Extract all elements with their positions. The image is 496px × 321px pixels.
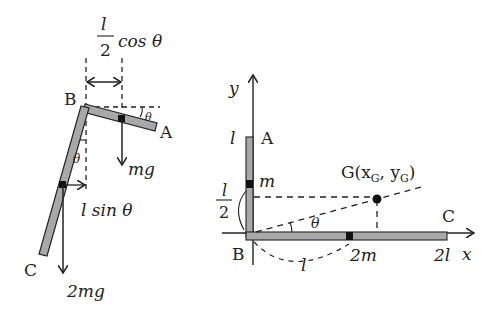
theta-label: θ xyxy=(311,215,320,231)
angle-arc-theta xyxy=(290,222,292,232)
label-A: A xyxy=(159,122,173,142)
fraction-numerator: l xyxy=(222,181,227,200)
x-axis-label: x xyxy=(462,244,472,264)
right-figure: y x l A B C m 2m l 2 θ l 2l G(xG, yG) xyxy=(216,75,474,275)
physics-diagram: B A C θ θ l 2 cos θ mg l sin θ 2mg xyxy=(0,0,496,321)
mass-2m-marker xyxy=(346,232,353,240)
theta-top: θ xyxy=(145,111,152,124)
force-label-2mg: 2mg xyxy=(66,281,105,301)
force-label-mg: mg xyxy=(128,159,155,179)
dim-top-numerator: l xyxy=(101,14,106,34)
dim-side-label: l sin θ xyxy=(81,200,133,220)
label-mass-2m: 2m xyxy=(349,245,377,265)
fraction-denominator: 2 xyxy=(219,203,229,222)
label-mass-m: m xyxy=(259,171,275,191)
label-C: C xyxy=(442,206,455,226)
label-B: B xyxy=(64,89,77,109)
arc-label-l: l xyxy=(301,255,306,275)
label-A: A xyxy=(260,128,274,148)
y-axis-label: y xyxy=(228,78,239,98)
angle-arc-top xyxy=(140,107,142,117)
label-B: B xyxy=(232,244,245,264)
dim-top-denominator: 2 xyxy=(100,40,111,60)
tick-label-2l: 2l xyxy=(433,245,450,265)
G-label: G(xG, yG) xyxy=(341,162,415,185)
theta-side: θ xyxy=(73,152,81,166)
dashed-line-BG xyxy=(256,186,425,232)
half-length-arc xyxy=(238,191,246,230)
mass-m-marker xyxy=(246,180,253,188)
center-of-mass-G xyxy=(373,195,382,204)
dim-top-func: cos θ xyxy=(118,31,162,51)
tick-label-l: l xyxy=(230,128,235,148)
left-figure: B A C θ θ l 2 cos θ mg l sin θ 2mg xyxy=(24,14,173,301)
label-C: C xyxy=(24,260,37,280)
